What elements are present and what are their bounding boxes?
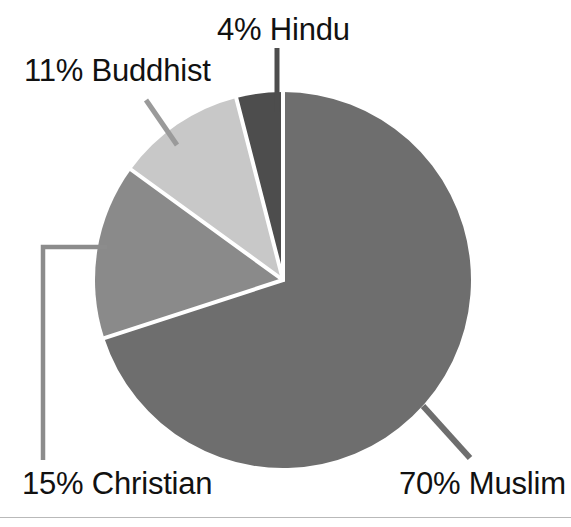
bottom-divider [0,517,571,518]
leader-line-muslim [423,406,470,458]
pie-label-hindu: 4% Hindu [217,14,350,45]
pie-label-muslim: 70% Muslim [399,468,566,499]
pie-label-christian: 15% Christian [22,468,212,499]
pie-chart: 4% Hindu 11% Buddhist 15% Christian 70% … [0,0,571,527]
pie-label-buddhist: 11% Buddhist [24,55,211,86]
